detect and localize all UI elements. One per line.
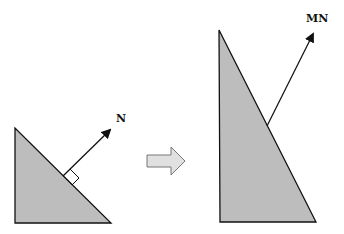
right-arrow-icon (147, 147, 185, 175)
label-n: N (116, 112, 126, 125)
normal-vector-n (63, 130, 110, 176)
label-mn: MN (306, 12, 328, 25)
diagram-canvas: N MN (0, 0, 344, 234)
diagram-svg: N MN (0, 0, 344, 234)
vector-mn (267, 34, 313, 126)
